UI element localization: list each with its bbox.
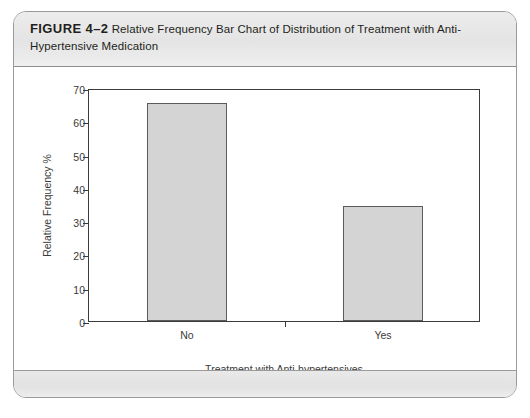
y-axis-tick-label: 70 [73, 84, 85, 96]
y-axis-tick-label: 20 [73, 250, 85, 262]
x-axis-tick-label: No [180, 329, 193, 341]
figure-caption: FIGURE 4–2 Relative Frequency Bar Chart … [30, 21, 500, 54]
y-axis-tick-label: 40 [73, 184, 85, 196]
y-axis-tick-label: 0 [79, 317, 85, 329]
y-axis-tick-label: 50 [73, 151, 85, 163]
bar [147, 103, 227, 321]
bar [343, 206, 423, 321]
figure-number-label: FIGURE 4–2 [30, 21, 108, 36]
y-axis-title: Relative Frequency % [40, 89, 54, 322]
x-axis-tick-mark [285, 321, 286, 327]
figure-body: Relative Frequency % 010203040506070NoYe… [14, 68, 516, 371]
bar-chart: Relative Frequency % 010203040506070NoYe… [14, 68, 516, 371]
plot-inner: 010203040506070NoYes [89, 90, 479, 321]
x-axis-tick-label: Yes [374, 329, 391, 341]
figure-caption-band: FIGURE 4–2 Relative Frequency Bar Chart … [14, 12, 516, 67]
y-axis-tick-label: 60 [73, 117, 85, 129]
figure-card: FIGURE 4–2 Relative Frequency Bar Chart … [13, 11, 517, 398]
y-axis-tick-label: 10 [73, 284, 85, 296]
plot-frame: 010203040506070NoYes [88, 89, 480, 322]
figure-footer-band [14, 370, 516, 397]
y-axis-tick-label: 30 [73, 217, 85, 229]
